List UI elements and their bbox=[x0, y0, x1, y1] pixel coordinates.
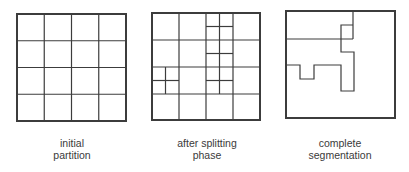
caption-line: initial bbox=[12, 137, 132, 149]
region-boundary bbox=[341, 25, 353, 39]
complete-segmentation-regions bbox=[286, 11, 395, 118]
region-boundary bbox=[286, 39, 354, 91]
initial-partition-grid bbox=[17, 14, 126, 121]
caption-initial-partition: initial partition bbox=[12, 137, 132, 161]
caption-line: segmentation bbox=[280, 149, 400, 161]
caption-complete-segmentation: complete segmentation bbox=[280, 137, 400, 161]
caption-line: partition bbox=[12, 149, 132, 161]
caption-after-splitting-phase: after splitting phase bbox=[147, 137, 267, 161]
caption-line: after splitting bbox=[147, 137, 267, 149]
caption-line: complete bbox=[280, 137, 400, 149]
caption-line: phase bbox=[147, 149, 267, 161]
after-splitting-phase-grid bbox=[152, 13, 260, 120]
